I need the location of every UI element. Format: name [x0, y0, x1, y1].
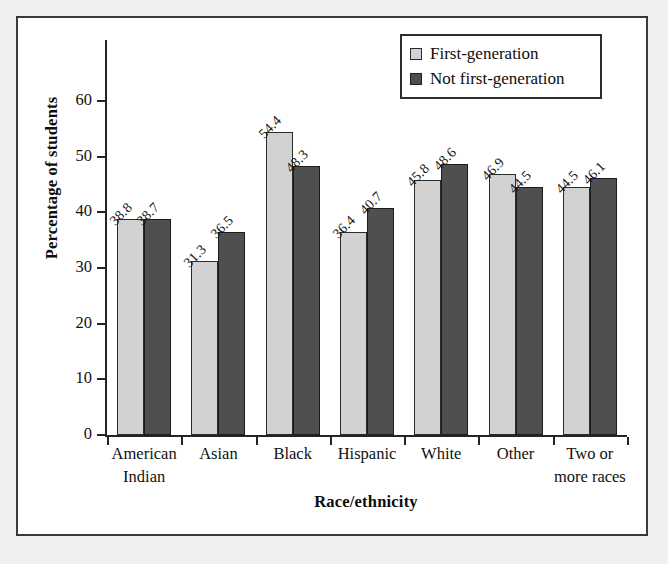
x-axis-category-label: Two ormore races	[553, 442, 627, 488]
x-axis-category-label: Other	[478, 442, 552, 465]
legend-item-first-generation[interactable]: First-generation	[410, 41, 592, 66]
y-axis-tick	[97, 100, 106, 102]
x-axis-title: Race/ethnicity	[105, 492, 627, 512]
bar-white-first-generation	[414, 180, 441, 435]
bar-hispanic-first-generation	[340, 232, 367, 435]
x-axis-category-label: AmericanIndian	[107, 442, 181, 488]
bar-asian-first-generation	[191, 261, 218, 435]
y-axis-tick	[97, 156, 106, 158]
legend-item-not-first-generation[interactable]: Not first-generation	[410, 66, 592, 91]
cut-off-caption-text: —	[120, 0, 135, 4]
bar-american-indian-first-generation	[117, 219, 144, 435]
legend-label-first-generation: First-generation	[430, 44, 539, 64]
cut-off-caption-above-figure: —	[0, 0, 668, 15]
y-axis-tick	[97, 323, 106, 325]
chart-legend: First-generation Not first-generation	[400, 34, 602, 99]
x-axis-category-label: Hispanic	[330, 442, 404, 465]
x-axis-category-label: Asian	[181, 442, 255, 465]
y-axis-tick-label: 10	[18, 368, 92, 388]
legend-swatch-icon-first-generation	[410, 48, 422, 60]
bar-black-not-first-generation	[293, 166, 320, 435]
y-axis-title: Percentage of students	[42, 18, 62, 338]
x-axis-category-label: Black	[256, 442, 330, 465]
y-axis-tick	[97, 434, 106, 436]
legend-swatch-icon-not-first-generation	[410, 73, 422, 85]
y-axis-tick	[97, 378, 106, 380]
legend-label-not-first-generation: Not first-generation	[430, 69, 565, 89]
bar-american-indian-not-first-generation	[144, 219, 171, 435]
bar-black-first-generation	[266, 132, 293, 435]
bar-hispanic-not-first-generation	[367, 208, 394, 435]
bar-white-not-first-generation	[441, 164, 468, 435]
bar-other-first-generation	[489, 174, 516, 435]
y-axis-tick-label: 0	[18, 424, 92, 444]
bar-asian-not-first-generation	[218, 232, 245, 435]
y-axis-tick	[97, 211, 106, 213]
chart-plot-area: 0102030405060 Percentage of students 38.…	[18, 18, 646, 534]
x-axis-category-label: White	[404, 442, 478, 465]
y-axis-tick	[97, 267, 106, 269]
bar-two-or-more-races-not-first-generation	[590, 178, 617, 435]
bar-two-or-more-races-first-generation	[563, 187, 590, 435]
x-axis-line	[105, 435, 627, 437]
figure-frame: 0102030405060 Percentage of students 38.…	[16, 16, 648, 536]
bar-other-not-first-generation	[516, 187, 543, 435]
x-axis-tick	[627, 437, 629, 445]
